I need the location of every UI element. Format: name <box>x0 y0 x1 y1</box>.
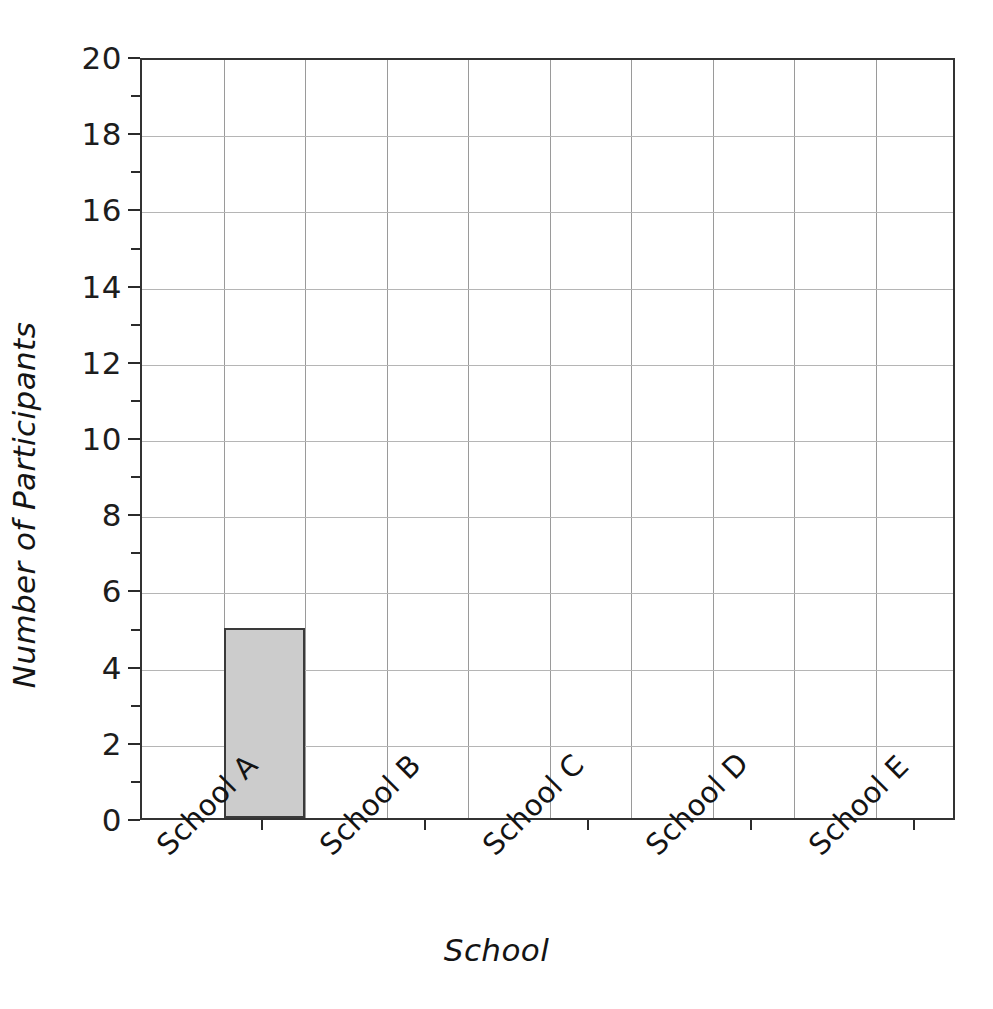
x-axis-tick <box>424 820 426 830</box>
y-axis-tick-minor <box>131 629 140 631</box>
y-axis-tick-label: 14 <box>82 269 122 305</box>
y-axis-tick-major <box>128 133 140 135</box>
y-axis-tick-label: 16 <box>82 192 122 228</box>
y-axis-tick-label: 0 <box>102 802 122 838</box>
y-axis-tick-label: 20 <box>82 40 122 76</box>
y-axis-tick-minor <box>131 324 140 326</box>
y-axis-tick-major <box>128 514 140 516</box>
y-axis-tick-major <box>128 362 140 364</box>
y-axis-tick-label: 12 <box>82 345 122 381</box>
y-axis-tick-minor <box>131 552 140 554</box>
y-axis-tick-label: 8 <box>102 497 122 533</box>
y-axis-tick-label: 4 <box>102 650 122 686</box>
y-axis-tick-label: 6 <box>102 573 122 609</box>
x-axis-tick <box>261 820 263 830</box>
y-axis-tick-major <box>128 819 140 821</box>
x-axis-tick <box>587 820 589 830</box>
y-axis-tick-minor <box>131 781 140 783</box>
y-axis-tick-major <box>128 438 140 440</box>
y-axis-tick-major <box>128 743 140 745</box>
bars-layer <box>142 60 953 818</box>
bar-chart-figure: Number of Participants 02468101214161820… <box>0 0 993 1009</box>
y-axis-tick-label: 2 <box>102 726 122 762</box>
y-axis-tick-major <box>128 57 140 59</box>
x-axis-title: School <box>0 932 993 968</box>
y-axis-tick-label: 10 <box>82 421 122 457</box>
y-axis-tick-minor <box>131 95 140 97</box>
y-axis-tick-major <box>128 590 140 592</box>
plot-area <box>140 58 955 820</box>
y-axis-tick-minor <box>131 476 140 478</box>
y-axis-tick-major <box>128 209 140 211</box>
y-axis-tick-major <box>128 667 140 669</box>
y-axis-tick-minor <box>131 171 140 173</box>
x-axis-tick <box>750 820 752 830</box>
y-axis-tick-minor <box>131 400 140 402</box>
y-axis-tick-minor <box>131 248 140 250</box>
y-axis-title: Number of Participants <box>6 321 42 687</box>
y-axis-tick-minor <box>131 705 140 707</box>
y-axis-tick-major <box>128 286 140 288</box>
y-axis-tick-label: 18 <box>82 116 122 152</box>
x-axis-tick <box>913 820 915 830</box>
